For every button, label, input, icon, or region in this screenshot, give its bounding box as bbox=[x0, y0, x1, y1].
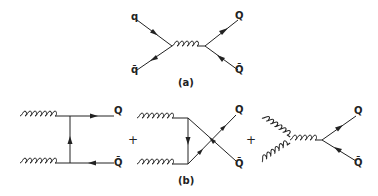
gluon-propagator bbox=[172, 41, 205, 46]
plus-sign: + bbox=[128, 133, 138, 147]
gluon-in-bottom bbox=[259, 139, 290, 162]
gluon-propagator bbox=[290, 135, 322, 140]
label-Q: Q bbox=[354, 105, 363, 116]
arrow-icon bbox=[68, 136, 73, 144]
gluon-in-top bbox=[20, 111, 70, 116]
caption-b: (b) bbox=[178, 175, 194, 186]
label-q: q bbox=[131, 11, 138, 22]
panel-b-diagram-1: Q Q̄ bbox=[20, 105, 123, 168]
label-Q: Q bbox=[235, 104, 244, 115]
arrow-icon bbox=[209, 137, 216, 144]
feynman-diagrams: q q̄ Q Q̄ (a) Q Q̄ + Q Q̄ + bbox=[0, 0, 378, 196]
panel-a: q q̄ Q Q̄ (a) bbox=[131, 10, 244, 88]
arrow-icon bbox=[88, 161, 96, 166]
gluon-in-top bbox=[262, 114, 293, 137]
panel-b-diagram-3: Q Q̄ bbox=[259, 105, 362, 168]
arrow-icon bbox=[217, 55, 225, 62]
gluon-in-bottom bbox=[20, 158, 70, 163]
label-Qbar: Q̄ bbox=[235, 157, 244, 169]
label-qbar: q̄ bbox=[131, 64, 138, 75]
caption-a: (a) bbox=[178, 77, 194, 88]
label-Qbar: Q̄ bbox=[354, 156, 363, 168]
label-Q: Q bbox=[235, 10, 244, 21]
arrow-icon bbox=[90, 114, 98, 119]
plus-sign: + bbox=[246, 133, 256, 147]
gluon-in-bottom bbox=[137, 159, 188, 164]
arrow-icon bbox=[186, 137, 191, 145]
panel-b-diagram-2: Q Q̄ bbox=[137, 104, 244, 169]
gluon-in-top bbox=[137, 113, 188, 118]
label-Q: Q bbox=[114, 105, 123, 116]
label-Qbar: Q̄ bbox=[114, 156, 123, 168]
label-Qbar: Q̄ bbox=[235, 63, 244, 75]
